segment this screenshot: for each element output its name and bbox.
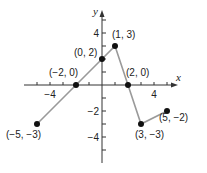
axes: [24, 10, 178, 163]
data-point: [99, 56, 105, 62]
data-point-label: (1, 3): [112, 29, 135, 40]
y-tick-label: 4: [93, 28, 99, 39]
data-point-label: (0, 2): [74, 47, 97, 58]
data-point-label: (−2, 0): [49, 67, 78, 78]
data-point: [112, 43, 118, 49]
y-axis-arrow-icon: [100, 10, 105, 17]
data-point-label: (2, 0): [126, 67, 149, 78]
x-axis-label: x: [175, 71, 181, 83]
data-point: [125, 82, 131, 88]
data-point: [138, 121, 144, 127]
x-tick-label: 4: [151, 89, 157, 100]
y-tick-label: −2: [88, 106, 100, 117]
data-point: [73, 82, 79, 88]
data-point: [34, 121, 40, 127]
y-axis-label: y: [92, 5, 98, 17]
x-tick-label: −4: [44, 89, 56, 100]
data-point-label: (3, −3): [135, 129, 164, 140]
y-tick-label: −4: [88, 132, 100, 143]
coordinate-plot: −444−2−4 (−5, −3)(−2, 0)(0, 2)(1, 3)(2, …: [0, 0, 207, 173]
data-point-label: (−5, −3): [6, 129, 41, 140]
x-axis-arrow-icon: [171, 83, 178, 88]
data-point-label: (5, −2): [159, 112, 188, 123]
